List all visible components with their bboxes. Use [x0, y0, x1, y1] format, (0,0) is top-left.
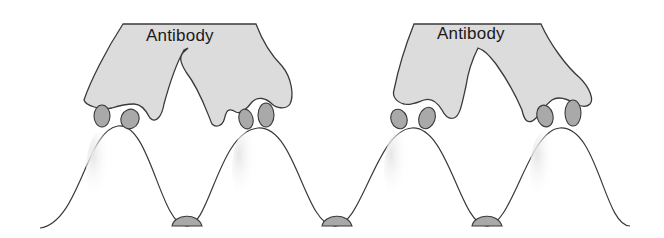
bound-epitopes: [94, 100, 581, 132]
valley-epitopes: [172, 216, 502, 226]
antibody-diagram: Antibody Antibody: [0, 0, 664, 238]
antibody-label-2: Antibody: [437, 24, 505, 44]
antibody-label-1: Antibody: [146, 26, 214, 46]
cell-surface: [40, 126, 630, 228]
diagram-canvas: [0, 0, 664, 238]
